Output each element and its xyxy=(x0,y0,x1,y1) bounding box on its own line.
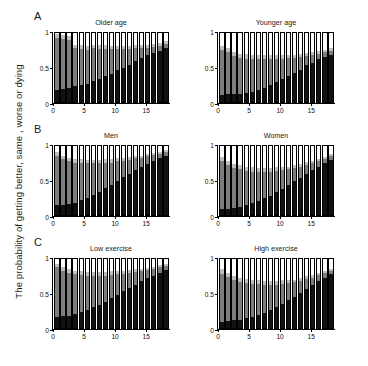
stacked-bar[interactable] xyxy=(316,32,321,103)
stacked-bar[interactable] xyxy=(274,32,279,103)
stacked-bar[interactable] xyxy=(66,145,71,216)
stacked-bar[interactable] xyxy=(145,145,150,216)
stacked-bar[interactable] xyxy=(145,258,150,329)
stacked-bar[interactable] xyxy=(72,258,77,329)
stacked-bar[interactable] xyxy=(268,258,273,329)
stacked-bar[interactable] xyxy=(250,258,255,329)
stacked-bar[interactable] xyxy=(256,145,261,216)
stacked-bar[interactable] xyxy=(231,258,236,329)
stacked-bar[interactable] xyxy=(268,32,273,103)
stacked-bar[interactable] xyxy=(60,258,65,329)
stacked-bar[interactable] xyxy=(225,32,230,103)
stacked-bar[interactable] xyxy=(310,258,315,329)
stacked-bar[interactable] xyxy=(322,145,327,216)
stacked-bar[interactable] xyxy=(280,32,285,103)
stacked-bar[interactable] xyxy=(157,32,162,103)
stacked-bar[interactable] xyxy=(133,32,138,103)
stacked-bar[interactable] xyxy=(97,32,102,103)
stacked-bar[interactable] xyxy=(54,32,59,103)
stacked-bar[interactable] xyxy=(103,258,108,329)
stacked-bar[interactable] xyxy=(163,145,168,216)
stacked-bar[interactable] xyxy=(115,258,120,329)
stacked-bar[interactable] xyxy=(79,32,84,103)
stacked-bar[interactable] xyxy=(121,145,126,216)
stacked-bar[interactable] xyxy=(103,32,108,103)
stacked-bar[interactable] xyxy=(298,258,303,329)
stacked-bar[interactable] xyxy=(163,32,168,103)
stacked-bar[interactable] xyxy=(225,145,230,216)
stacked-bar[interactable] xyxy=(60,32,65,103)
stacked-bar[interactable] xyxy=(54,145,59,216)
stacked-bar[interactable] xyxy=(286,145,291,216)
stacked-bar[interactable] xyxy=(304,145,309,216)
stacked-bar[interactable] xyxy=(60,145,65,216)
stacked-bar[interactable] xyxy=(121,32,126,103)
stacked-bar[interactable] xyxy=(316,258,321,329)
stacked-bar[interactable] xyxy=(139,145,144,216)
stacked-bar[interactable] xyxy=(280,258,285,329)
stacked-bar[interactable] xyxy=(66,258,71,329)
stacked-bar[interactable] xyxy=(244,145,249,216)
stacked-bar[interactable] xyxy=(262,145,267,216)
stacked-bar[interactable] xyxy=(85,258,90,329)
stacked-bar[interactable] xyxy=(72,145,77,216)
stacked-bar[interactable] xyxy=(91,32,96,103)
stacked-bar[interactable] xyxy=(157,258,162,329)
stacked-bar[interactable] xyxy=(139,258,144,329)
stacked-bar[interactable] xyxy=(310,145,315,216)
stacked-bar[interactable] xyxy=(310,32,315,103)
stacked-bar[interactable] xyxy=(286,32,291,103)
stacked-bar[interactable] xyxy=(256,258,261,329)
stacked-bar[interactable] xyxy=(286,258,291,329)
stacked-bar[interactable] xyxy=(250,145,255,216)
stacked-bar[interactable] xyxy=(292,145,297,216)
stacked-bar[interactable] xyxy=(250,32,255,103)
stacked-bar[interactable] xyxy=(66,32,71,103)
stacked-bar[interactable] xyxy=(231,145,236,216)
stacked-bar[interactable] xyxy=(85,32,90,103)
stacked-bar[interactable] xyxy=(151,258,156,329)
stacked-bar[interactable] xyxy=(163,258,168,329)
stacked-bar[interactable] xyxy=(322,32,327,103)
stacked-bar[interactable] xyxy=(91,258,96,329)
stacked-bar[interactable] xyxy=(237,145,242,216)
stacked-bar[interactable] xyxy=(103,145,108,216)
stacked-bar[interactable] xyxy=(274,258,279,329)
stacked-bar[interactable] xyxy=(219,32,224,103)
stacked-bar[interactable] xyxy=(145,32,150,103)
stacked-bar[interactable] xyxy=(262,258,267,329)
stacked-bar[interactable] xyxy=(298,145,303,216)
stacked-bar[interactable] xyxy=(133,145,138,216)
stacked-bar[interactable] xyxy=(280,145,285,216)
stacked-bar[interactable] xyxy=(237,258,242,329)
stacked-bar[interactable] xyxy=(151,32,156,103)
stacked-bar[interactable] xyxy=(85,145,90,216)
stacked-bar[interactable] xyxy=(54,258,59,329)
stacked-bar[interactable] xyxy=(151,145,156,216)
stacked-bar[interactable] xyxy=(237,32,242,103)
stacked-bar[interactable] xyxy=(328,32,333,103)
stacked-bar[interactable] xyxy=(115,32,120,103)
stacked-bar[interactable] xyxy=(328,145,333,216)
stacked-bar[interactable] xyxy=(304,32,309,103)
stacked-bar[interactable] xyxy=(304,258,309,329)
stacked-bar[interactable] xyxy=(79,145,84,216)
stacked-bar[interactable] xyxy=(109,258,114,329)
stacked-bar[interactable] xyxy=(133,258,138,329)
stacked-bar[interactable] xyxy=(91,145,96,216)
stacked-bar[interactable] xyxy=(244,258,249,329)
stacked-bar[interactable] xyxy=(268,145,273,216)
stacked-bar[interactable] xyxy=(127,32,132,103)
stacked-bar[interactable] xyxy=(127,145,132,216)
stacked-bar[interactable] xyxy=(109,145,114,216)
stacked-bar[interactable] xyxy=(316,145,321,216)
stacked-bar[interactable] xyxy=(328,258,333,329)
stacked-bar[interactable] xyxy=(79,258,84,329)
stacked-bar[interactable] xyxy=(244,32,249,103)
stacked-bar[interactable] xyxy=(231,32,236,103)
stacked-bar[interactable] xyxy=(115,145,120,216)
stacked-bar[interactable] xyxy=(157,145,162,216)
stacked-bar[interactable] xyxy=(97,145,102,216)
stacked-bar[interactable] xyxy=(298,32,303,103)
stacked-bar[interactable] xyxy=(109,32,114,103)
